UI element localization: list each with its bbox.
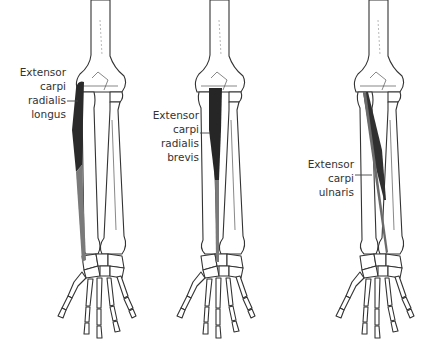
label-extensor-carpi-radialis-longus: Extensor carpi radialis longus <box>4 65 66 121</box>
muscle-ecrl <box>72 82 84 172</box>
arm-figure-ecrb <box>177 0 255 338</box>
forearm-extensor-illustration <box>0 0 427 350</box>
label-extensor-carpi-ulnaris: Extensor carpi ulnaris <box>292 157 354 199</box>
arm-figure-ecrl <box>58 0 136 338</box>
label-extensor-carpi-radialis-brevis: Extensor carpi radialis brevis <box>137 108 199 164</box>
